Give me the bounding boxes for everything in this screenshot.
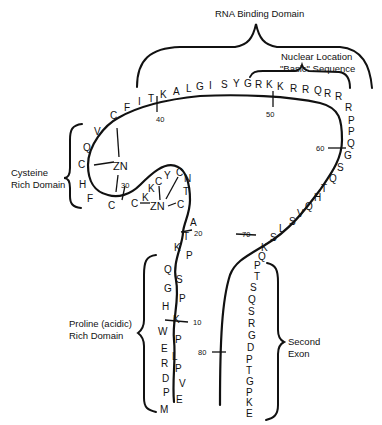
cysteine-rich-label-line1: Cysteine [11, 167, 48, 178]
svg-text:I: I [138, 96, 141, 107]
svg-text:K: K [266, 79, 273, 90]
svg-text:E: E [246, 408, 253, 419]
svg-text:R: R [161, 358, 168, 369]
svg-text:P: P [163, 387, 170, 398]
svg-text:Q: Q [83, 142, 91, 153]
svg-text:C: C [108, 200, 115, 211]
position-80: 80 [198, 348, 206, 357]
svg-text:L: L [172, 351, 178, 362]
svg-text:V: V [297, 208, 304, 219]
svg-text:T: T [246, 365, 252, 376]
position-50: 50 [266, 110, 274, 119]
svg-text:R: R [255, 79, 262, 90]
second-exon-label-line1: Second [288, 336, 320, 347]
tat-protein-diagram: 10 20 30 40 50 60 70 80 ZN ZN M E P V D … [0, 0, 382, 425]
svg-text:E: E [161, 343, 168, 354]
nuclear-location-label-line1: Nuclear Location [281, 51, 352, 62]
second-exon-brace [266, 263, 284, 420]
svg-text:S: S [337, 162, 344, 173]
svg-text:P: P [186, 250, 193, 261]
svg-text:N: N [184, 173, 191, 184]
svg-text:K: K [142, 192, 149, 203]
svg-text:E: E [176, 394, 183, 405]
svg-text:T: T [183, 231, 189, 242]
svg-text:G: G [248, 330, 256, 341]
svg-text:P: P [348, 126, 355, 137]
svg-text:G: G [344, 150, 352, 161]
cysteine-rich-label-line2: Rich Domain [11, 179, 65, 190]
position-10: 10 [193, 318, 201, 327]
svg-text:Q: Q [164, 264, 172, 275]
basic-region-residues: K A L G I S Y G R K K R R Q R R R P P Q [160, 78, 355, 149]
svg-text:K: K [160, 89, 167, 100]
position-70: 70 [242, 230, 250, 239]
svg-text:C: C [177, 199, 184, 210]
svg-text:R: R [324, 88, 331, 99]
proline-rich-brace [138, 255, 156, 412]
svg-text:K: K [174, 242, 181, 253]
position-40: 40 [156, 115, 164, 124]
svg-text:L: L [186, 83, 192, 94]
svg-text:A: A [173, 86, 180, 97]
svg-text:C: C [110, 110, 117, 121]
svg-text:R: R [290, 83, 297, 94]
svg-text:M: M [160, 404, 168, 415]
svg-text:K: K [277, 81, 284, 92]
svg-text:G: G [164, 283, 172, 294]
svg-text:Y: Y [233, 78, 240, 89]
svg-text:S: S [289, 216, 296, 227]
svg-text:R: R [335, 91, 342, 102]
svg-text:S: S [221, 79, 228, 90]
svg-text:C: C [176, 167, 183, 178]
svg-text:P: P [348, 115, 355, 126]
svg-text:V: V [179, 378, 186, 389]
svg-text:Q: Q [347, 138, 355, 149]
svg-text:P: P [179, 293, 186, 304]
svg-text:P: P [254, 260, 261, 271]
second-exon-label-line2: Exon [288, 348, 310, 359]
cysteine-rich-residues: A C T N C Y C K K C C F H C Q V C F I T [78, 93, 197, 228]
svg-text:S: S [250, 282, 257, 293]
position-20: 20 [194, 229, 202, 238]
svg-text:R: R [345, 102, 352, 113]
second-half-residues: G S Q T H Q V S L S K Q P T S Q S R G D … [246, 150, 352, 419]
svg-text:F: F [87, 193, 93, 204]
svg-text:L: L [279, 223, 285, 234]
proline-rich-label-line1: Proline (acidic) [69, 318, 132, 329]
svg-text:D: D [247, 342, 254, 353]
svg-text:K: K [148, 183, 155, 194]
svg-text:K: K [173, 314, 180, 325]
svg-text:T: T [254, 271, 260, 282]
svg-text:G: G [244, 78, 252, 89]
svg-text:H: H [162, 301, 169, 312]
svg-text:P: P [175, 334, 182, 345]
svg-text:R: R [302, 84, 309, 95]
svg-text:C: C [155, 176, 162, 187]
proline-rich-label-line2: Rich Domain [69, 330, 123, 341]
svg-text:K: K [246, 397, 253, 408]
svg-text:Q: Q [329, 173, 337, 184]
svg-text:S: S [248, 306, 255, 317]
svg-text:I: I [209, 80, 212, 91]
svg-text:V: V [94, 126, 101, 137]
nuclear-location-label-line2: "Basic" Sequence [280, 63, 355, 74]
svg-text:P: P [246, 354, 253, 365]
svg-text:G: G [196, 81, 204, 92]
zinc-atom-upper: ZN [113, 160, 128, 172]
svg-text:S: S [270, 232, 277, 243]
position-30: 30 [121, 181, 129, 190]
svg-text:P: P [175, 363, 182, 374]
svg-text:Q: Q [305, 201, 313, 212]
svg-text:Q: Q [248, 294, 256, 305]
svg-text:Y: Y [164, 170, 171, 181]
svg-text:D: D [162, 373, 169, 384]
svg-text:C: C [131, 198, 138, 209]
svg-text:H: H [79, 179, 86, 190]
svg-text:S: S [176, 274, 183, 285]
svg-text:T: T [321, 183, 327, 194]
position-60: 60 [316, 144, 324, 153]
svg-text:A: A [190, 217, 197, 228]
svg-text:R: R [248, 318, 255, 329]
svg-text:W: W [158, 326, 168, 337]
svg-text:Q: Q [314, 85, 322, 96]
